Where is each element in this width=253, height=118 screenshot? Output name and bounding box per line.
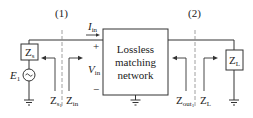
reference-plane-1-label: (1) bbox=[55, 7, 68, 20]
zout-arrow bbox=[176, 58, 186, 91]
arrow-right-icon bbox=[78, 56, 83, 60]
zs1-arrow bbox=[44, 58, 55, 91]
ground-icon-network bbox=[131, 100, 141, 105]
zl-arrow bbox=[204, 58, 214, 91]
ground-icon-load bbox=[229, 100, 239, 105]
minus-sign: − bbox=[93, 83, 99, 95]
zs1-label: Zs1 bbox=[50, 94, 62, 108]
input-voltage-label: Vin bbox=[88, 63, 101, 77]
zl-arrow-label: ZL bbox=[200, 94, 211, 108]
zout-label: Zout1 bbox=[176, 94, 195, 108]
network-label-line2: matching bbox=[115, 56, 156, 68]
reference-plane-2-label: (2) bbox=[188, 7, 201, 20]
network-label-line1: Lossless bbox=[117, 43, 154, 55]
source-voltage-label: E1 bbox=[9, 69, 21, 83]
circuit-diagram: Zs E1 (1) Zs1 Zin Iin + Vin − Lossless m… bbox=[0, 0, 253, 118]
zin-label: Zin bbox=[66, 94, 79, 108]
plus-sign: + bbox=[93, 40, 99, 52]
arrow-left-icon bbox=[41, 56, 46, 60]
input-current-label: Iin bbox=[87, 20, 98, 34]
network-label-line3: network bbox=[117, 69, 154, 81]
arrow-right-icon bbox=[213, 56, 218, 60]
ground-icon-source bbox=[24, 100, 34, 105]
zin-arrow bbox=[69, 58, 79, 91]
arrow-left-icon bbox=[172, 56, 177, 60]
current-arrow-icon bbox=[96, 33, 100, 36]
